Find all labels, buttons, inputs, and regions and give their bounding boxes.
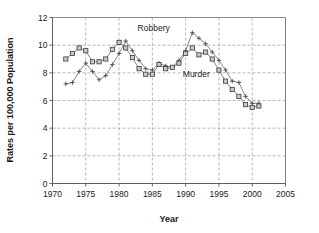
x-tick-label: 1970 bbox=[43, 189, 62, 199]
y-tick-label: 12 bbox=[38, 13, 48, 23]
y-tick-label: 0 bbox=[43, 179, 48, 189]
x-tick-label: 2000 bbox=[243, 189, 262, 199]
y-tick-label: 10 bbox=[38, 40, 48, 50]
markers-robbery bbox=[64, 31, 261, 106]
annotation-robbery: Robbery bbox=[138, 23, 171, 33]
y-axis-title: Rates per 100,000 Population bbox=[5, 37, 15, 162]
y-tick-label: 4 bbox=[43, 123, 48, 133]
x-tick-label: 1990 bbox=[176, 189, 195, 199]
y-tick-label: 8 bbox=[43, 68, 48, 78]
y-axis: 024681012 bbox=[38, 13, 52, 189]
y-tick-label: 2 bbox=[43, 151, 48, 161]
x-axis: 19701975198019851990199520002005 bbox=[43, 184, 295, 199]
series-polylines bbox=[66, 33, 259, 108]
x-axis-title: Year bbox=[159, 214, 179, 224]
x-axis-tick-labels: 19701975198019851990199520002005 bbox=[43, 189, 295, 199]
x-tick-label: 1985 bbox=[143, 189, 162, 199]
y-tick-label: 6 bbox=[43, 96, 48, 106]
horizontal-gridlines bbox=[53, 18, 286, 156]
crime-rates-line-chart: 024681012 197019751980198519901995200020… bbox=[0, 0, 319, 233]
x-tick-label: 1975 bbox=[76, 189, 95, 199]
x-tick-label: 1995 bbox=[209, 189, 228, 199]
markers-murder bbox=[64, 40, 261, 109]
series-line-robbery bbox=[66, 33, 259, 104]
x-tick-label: 2005 bbox=[276, 189, 295, 199]
series-annotations: RobberyMurder bbox=[138, 23, 210, 79]
y-axis-tick-labels: 024681012 bbox=[38, 13, 48, 189]
series-markers bbox=[64, 31, 261, 110]
chart-figure: 024681012 197019751980198519901995200020… bbox=[0, 0, 319, 233]
x-tick-label: 1980 bbox=[110, 189, 129, 199]
annotation-murder: Murder bbox=[183, 69, 210, 79]
